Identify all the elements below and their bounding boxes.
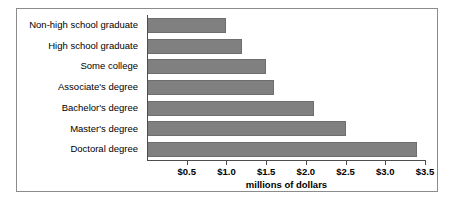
axis-tick	[425, 161, 426, 165]
axis-tick	[226, 161, 227, 165]
category-label: Master's degree	[17, 119, 143, 140]
category-axis-labels: Non-high school graduate High school gra…	[17, 15, 143, 160]
bar	[147, 18, 226, 33]
value-axis-ticks	[147, 161, 426, 165]
category-label: Non-high school graduate	[17, 15, 143, 36]
bar	[147, 121, 346, 136]
axis-tick-label: $1.0	[217, 166, 236, 177]
bar-row	[147, 77, 425, 98]
axis-tick-label: $1.5	[257, 166, 276, 177]
value-axis-tick-labels: $0.5$1.0$1.5$2.0$2.5$3.0$3.5	[17, 166, 439, 178]
bar	[147, 142, 417, 157]
bar-row	[147, 36, 425, 57]
bar	[147, 39, 242, 54]
axis-tick	[346, 161, 347, 165]
x-axis-title: millions of dollars	[147, 179, 426, 190]
axis-tick-label: $3.5	[416, 166, 435, 177]
category-label: Associate's degree	[17, 77, 143, 98]
chart-plot-area: Non-high school graduate High school gra…	[17, 9, 439, 193]
category-label: Bachelor's degree	[17, 98, 143, 119]
bar-row	[147, 98, 425, 119]
bar	[147, 101, 314, 116]
axis-tick-label: $2.0	[297, 166, 316, 177]
axis-tick	[266, 161, 267, 165]
axis-tick-label: $3.0	[376, 166, 395, 177]
axis-tick-label: $2.5	[336, 166, 355, 177]
axis-tick	[385, 161, 386, 165]
bar	[147, 59, 266, 74]
category-axis-line	[147, 15, 148, 161]
category-label: Some college	[17, 56, 143, 77]
bar-row	[147, 56, 425, 77]
bar-row	[147, 139, 425, 160]
bar	[147, 80, 274, 95]
axis-tick-label: $0.5	[177, 166, 196, 177]
chart-figure: Non-high school graduate High school gra…	[16, 8, 438, 192]
axis-tick	[306, 161, 307, 165]
bar-series	[147, 15, 425, 160]
bar-row	[147, 119, 425, 140]
category-label: Doctoral degree	[17, 139, 143, 160]
bar-row	[147, 15, 425, 36]
axis-tick	[187, 161, 188, 165]
category-label: High school graduate	[17, 36, 143, 57]
